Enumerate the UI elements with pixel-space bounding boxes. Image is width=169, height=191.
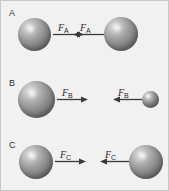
diagram-row-a: A FA FA <box>1 1 169 67</box>
row-c-right-sphere <box>129 145 163 179</box>
row-a-left-force-label: FA <box>58 18 69 34</box>
row-a-left-sphere <box>18 18 51 51</box>
force-subscript: C <box>66 154 71 161</box>
force-pairs-diagram: A FA FA B FB <box>0 0 169 191</box>
diagram-row-b: B FB FB <box>1 67 169 129</box>
force-subscript: A <box>64 27 69 34</box>
row-b-left-sphere <box>18 81 55 118</box>
force-subscript: C <box>111 154 116 161</box>
row-label-b: B <box>9 79 15 88</box>
row-b-right-sphere <box>142 91 159 108</box>
row-b-right-force-label: FB <box>118 83 129 99</box>
diagram-row-c: C FC FC <box>1 129 169 191</box>
force-subscript: A <box>86 27 91 34</box>
row-a-right-sphere <box>104 17 138 51</box>
force-subscript: B <box>68 92 73 99</box>
row-label-c: C <box>9 141 16 150</box>
row-label-a: A <box>9 9 15 18</box>
row-c-left-sphere <box>19 145 53 179</box>
row-b-left-force-label: FB <box>62 83 73 99</box>
row-c-right-force-label: FC <box>105 145 116 161</box>
row-a-right-force-label: FA <box>80 18 91 34</box>
force-subscript: B <box>124 92 129 99</box>
row-c-left-force-label: FC <box>60 145 71 161</box>
